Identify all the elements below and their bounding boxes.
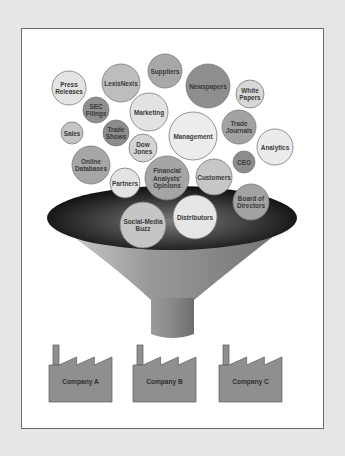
bubble-label: Shows	[106, 133, 127, 140]
bubble-white-papers: WhitePapers	[236, 80, 264, 108]
bubble-label: Social-Media	[123, 218, 163, 225]
chimney-icon	[223, 345, 229, 365]
bubble-distributors: Distributors	[173, 195, 217, 239]
factory-company-c: Company C	[219, 345, 282, 402]
company-label: Company C	[232, 378, 269, 386]
chimney-icon	[137, 345, 143, 365]
bubble-label: Suppliers	[150, 68, 180, 76]
bubble-label: Directors	[237, 202, 266, 209]
bubble-label: Opinions	[153, 182, 181, 190]
bubble-label: Board of	[238, 195, 265, 202]
bubble-label: CEO	[237, 159, 251, 166]
bubble-press-releases: PressReleases	[52, 71, 86, 105]
bubble-label: Papers	[239, 94, 261, 102]
bubble-label: Financial	[153, 167, 181, 174]
bubble-label: Online	[81, 158, 101, 165]
factory-company-a: Company A	[49, 345, 112, 402]
bubble-label: Journals	[226, 127, 253, 134]
bubble-label: LexisNexis	[104, 80, 138, 87]
bubble-label: Trade	[230, 120, 247, 127]
bubble-sales: Sales	[61, 122, 83, 144]
chimney-icon	[53, 345, 59, 365]
factory-company-b: Company B	[133, 345, 196, 402]
bubble-management: Management	[169, 112, 217, 160]
bubble-label: White	[241, 87, 259, 94]
company-label: Company B	[146, 378, 183, 386]
bubble-suppliers: Suppliers	[148, 54, 182, 88]
bubble-label: Filings	[86, 110, 107, 118]
bubble-online-databases: OnlineDatabases	[72, 146, 110, 184]
bubble-trade-journals: TradeJournals	[222, 110, 256, 144]
bubble-label: SEC	[89, 103, 103, 110]
bubble-marketing: Marketing	[130, 93, 168, 131]
bubble-sec-filings: SECFilings	[83, 97, 109, 123]
bubble-label: Buzz	[136, 225, 151, 232]
bubble-customers: Customers	[196, 159, 232, 195]
bubble-newspapers: Newspapers	[186, 64, 230, 108]
bubble-dow-jones: DowJones	[129, 134, 157, 162]
funnel-diagram: PressReleasesLexisNexisSuppliersNewspape…	[0, 0, 345, 456]
bubble-label: Analytics	[261, 144, 290, 152]
bubble-label: Press	[60, 81, 78, 88]
bubble-ceo: CEO	[233, 151, 255, 173]
bubble-label: Partners	[112, 180, 138, 187]
bubble-label: Dow	[136, 141, 150, 148]
bubble-financial-analysts-opinions: FinancialAnalysts'Opinions	[145, 156, 189, 200]
bubble-lexisnexis: LexisNexis	[102, 64, 140, 102]
bubble-label: Releases	[55, 88, 83, 95]
bubble-analytics: Analytics	[257, 129, 293, 165]
bubble-label: Marketing	[134, 109, 164, 117]
bubble-social-media-buzz: Social-MediaBuzz	[120, 202, 166, 248]
bubble-label: Newspapers	[189, 83, 227, 91]
bubble-label: Management	[173, 133, 213, 141]
bubble-label: Trade	[107, 126, 124, 133]
company-label: Company A	[62, 378, 99, 386]
bubble-label: Databases	[75, 165, 107, 172]
bubble-label: Distributors	[177, 214, 214, 221]
bubble-label: Jones	[134, 148, 153, 155]
bubble-board-of-directors: Board ofDirectors	[233, 184, 269, 220]
bubble-partners: Partners	[110, 168, 140, 198]
bubble-label: Sales	[64, 130, 81, 137]
funnel-stem	[151, 298, 194, 338]
companies: Company ACompany BCompany C	[49, 345, 282, 402]
bubble-trade-shows: TradeShows	[103, 120, 129, 146]
bubble-label: Customers	[197, 174, 231, 181]
